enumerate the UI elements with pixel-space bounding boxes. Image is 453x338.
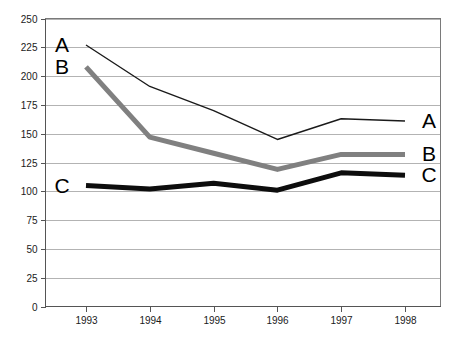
y-tick-label-250: 250 [21,14,38,25]
y-tick-label-225: 225 [21,42,38,53]
series-label-left-c: C [54,174,69,197]
x-tick-label-1993: 1993 [75,315,98,326]
y-tick-label-75: 75 [26,215,38,226]
x-tick-label-1996: 1996 [266,315,289,326]
series-label-right-c: C [421,163,436,186]
x-tick-label-1998: 1998 [394,315,417,326]
series-label-left-b: B [55,55,69,78]
y-tick-label-25: 25 [26,273,38,284]
series-label-left-a: A [55,33,69,56]
y-tick-label-200: 200 [21,71,38,82]
x-tick-label-1995: 1995 [203,315,226,326]
y-tick-label-50: 50 [26,244,38,255]
chart-canvas: 0255075100125150175200225250 19931994199… [0,0,453,338]
y-tick-label-100: 100 [21,186,38,197]
y-tick-label-175: 175 [21,100,38,111]
x-tick-label-1997: 1997 [330,315,353,326]
y-tick-label-150: 150 [21,129,38,140]
y-tick-label-125: 125 [21,158,38,169]
line-chart: 0255075100125150175200225250 19931994199… [0,0,453,338]
y-tick-label-0: 0 [32,302,38,313]
series-label-right-b: B [422,142,436,165]
series-label-right-a: A [422,109,436,132]
x-tick-label-1994: 1994 [139,315,162,326]
